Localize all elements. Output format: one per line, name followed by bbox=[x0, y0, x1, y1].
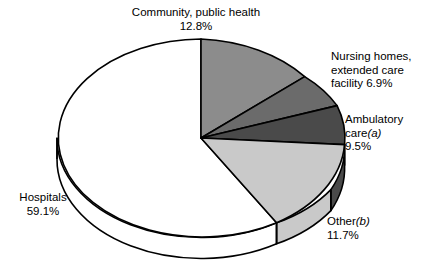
slice-label-percent: 11.7% bbox=[327, 229, 370, 243]
slice-label-text-line1: Nursing homes, bbox=[331, 50, 412, 64]
slice-label-percent: 9.5% bbox=[345, 140, 403, 154]
slice-label-text-line2: care(a) bbox=[345, 127, 403, 141]
slice-label-other: Other(b) 11.7% bbox=[327, 215, 370, 242]
pie-chart: Community, public health 12.8% Nursing h… bbox=[0, 0, 425, 270]
slice-label-text: Hospitals bbox=[3, 191, 83, 205]
slice-label-text-line1: Other(b) bbox=[327, 215, 370, 229]
footnote-marker-a: (a) bbox=[367, 127, 381, 139]
slice-label-ambulatory-care: Ambulatory care(a) 9.5% bbox=[345, 113, 403, 154]
slice-label-text: Community, public health bbox=[121, 6, 271, 20]
slice-label-nursing-homes: Nursing homes, extended care facility 6.… bbox=[331, 50, 412, 91]
slice-label-text-line3: facility 6.9% bbox=[331, 77, 412, 91]
slice-label-text-line1: Ambulatory bbox=[345, 113, 403, 127]
slice-label-text-care: care bbox=[345, 127, 367, 139]
slice-label-percent: 12.8% bbox=[121, 20, 271, 34]
footnote-marker-b: (b) bbox=[356, 215, 370, 227]
slice-label-community-public-health: Community, public health 12.8% bbox=[121, 6, 271, 33]
slice-label-text-other: Other bbox=[327, 215, 356, 227]
slice-label-text-line2: extended care bbox=[331, 64, 412, 78]
slice-label-hospitals: Hospitals 59.1% bbox=[3, 191, 83, 218]
slice-label-percent: 59.1% bbox=[3, 205, 83, 219]
